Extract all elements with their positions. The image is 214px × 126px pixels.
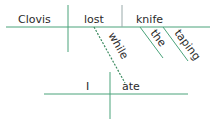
sub-verb-word: ate	[122, 80, 140, 93]
subject-word: Clovis	[18, 13, 51, 26]
verb-word: lost	[84, 13, 105, 26]
object-word: knife	[136, 13, 163, 26]
connector-word: while	[105, 30, 131, 62]
sentence-diagram: Clovis lost knife the taping while I ate	[0, 0, 214, 126]
sub-subject-word: I	[86, 80, 89, 93]
